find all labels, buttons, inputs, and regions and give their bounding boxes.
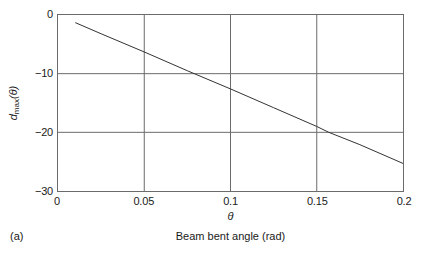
x-tick-label: 0 <box>54 196 60 207</box>
data-series-line <box>75 23 403 164</box>
x-tick-label: 0.2 <box>397 196 412 207</box>
plot-canvas <box>58 15 403 191</box>
series-path <box>75 23 403 164</box>
x-axis-title: θ <box>57 210 404 222</box>
panel-label: (a) <box>10 230 23 242</box>
y-axis-title-var: d <box>7 114 19 120</box>
figure-caption: Beam bent angle (rad) <box>57 230 404 242</box>
x-tick-label: 0.15 <box>307 196 328 207</box>
x-tick-label: 0.1 <box>223 196 238 207</box>
y-tick-label: 0 <box>7 9 53 20</box>
x-tick-label: 0.05 <box>133 196 154 207</box>
figure-panel-a: 0 −10 −20 −30 dmax(θ) 0 0.05 0.1 0.15 0.… <box>0 0 425 254</box>
y-axis-title-subscript: max <box>12 99 21 114</box>
y-tick-label: −30 <box>7 186 53 197</box>
plot-area <box>57 14 404 192</box>
x-axis-tick-labels: 0 0.05 0.1 0.15 0.2 <box>57 196 404 210</box>
gridlines <box>58 15 403 191</box>
y-axis-title: dmax(θ) <box>7 55 23 151</box>
y-axis-title-arg: (θ) <box>7 86 19 99</box>
